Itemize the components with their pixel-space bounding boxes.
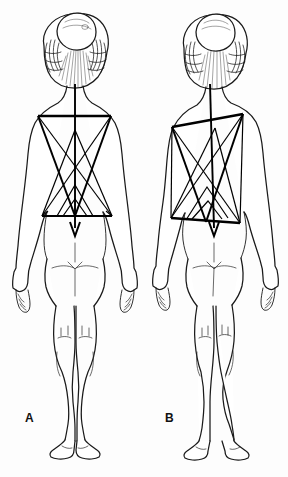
head-hair-b [183,14,247,89]
chevron-outer-b [186,187,228,220]
panel-label-a: A [25,411,34,425]
postural-assessment-figure: A B [0,0,288,477]
head-hair-a [43,13,108,88]
figure-illustration [0,0,288,477]
panel-b-figure [153,14,279,460]
panel-label-b: B [165,411,174,425]
